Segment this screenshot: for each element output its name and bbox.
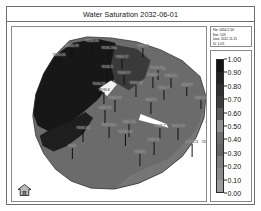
colorbar-band-4	[217, 108, 223, 120]
colorbar-tick-label: 0.80	[228, 82, 242, 89]
home-icon-glyph	[17, 183, 32, 197]
colorbar-tick-label: 0.50	[228, 123, 242, 130]
colorbar-tick-dash	[224, 59, 227, 60]
colorbar-tick-dash	[224, 112, 227, 113]
colorbar-wrap: 1.000.900.800.700.600.500.400.300.200.10…	[216, 59, 246, 193]
colorbar-band-1	[217, 72, 223, 84]
content-area: YD34-38YD34-28YD34-19wYD34-7YD34-35YD34-…	[7, 22, 254, 204]
colorbar-band-7	[217, 144, 223, 156]
colorbar-tick-dash	[224, 85, 227, 86]
colorbar-band-3	[217, 96, 223, 108]
colorbar-tick: 0.50	[224, 123, 241, 130]
colorbar-band-0	[217, 60, 223, 72]
colorbar-tick: 0.70	[224, 96, 241, 103]
colorbar-tick-label: 0.10	[228, 176, 242, 183]
application-window: Water Saturation 2032-06-01	[6, 6, 255, 205]
colorbar-tick-label: 0.30	[228, 149, 242, 156]
colorbar-tick: 0.20	[224, 163, 241, 170]
saturation-map-svg	[12, 27, 206, 201]
colorbar-tick-label: 0.70	[228, 96, 242, 103]
colorbar-tick: 0.10	[224, 176, 241, 183]
colorbar-tick: 0.80	[224, 82, 241, 89]
colorbar-tick: 0.90	[224, 69, 241, 76]
info-line-id: ID: 1.0/1	[213, 42, 250, 47]
colorbar-band-8	[217, 156, 223, 168]
colorbar-tick-label: 1.00	[228, 56, 242, 63]
colorbar-tick-dash	[224, 152, 227, 153]
colorbar-tick-dash	[224, 179, 227, 180]
saturation-map-canvas[interactable]	[12, 27, 206, 201]
colorbar-band-10	[217, 180, 223, 192]
colorbar-tick: 0.30	[224, 149, 241, 156]
colorbar-tick: 0.40	[224, 136, 241, 143]
window-title-bar: Water Saturation 2032-06-01	[7, 7, 254, 22]
colorbar-tick: 1.00	[224, 56, 241, 63]
colorbar-tick-label: 0.60	[228, 109, 242, 116]
colorbar-band-6	[217, 132, 223, 144]
colorbar-tick-label: 0.40	[228, 136, 242, 143]
colorbar-tick-dash	[224, 139, 227, 140]
colorbar-band-2	[217, 84, 223, 96]
colorbar-tick-dash	[224, 72, 227, 73]
colorbar-tick-label: 0.20	[228, 163, 242, 170]
map-saturation-regions	[12, 27, 206, 201]
colorbar-gradient-strip	[216, 59, 224, 193]
colorbar-tick-label: 0.00	[228, 190, 242, 197]
colorbar-tick-label: 0.90	[228, 69, 242, 76]
colorbar-band-5	[217, 120, 223, 132]
metadata-info-box: File: 0454-2.50: Stor: 103 Date: 2012-11…	[210, 26, 252, 47]
page-title: Water Saturation 2032-06-01	[83, 10, 178, 19]
colorbar-band-9	[217, 168, 223, 180]
map-plot-panel[interactable]: YD34-38YD34-28YD34-19wYD34-7YD34-35YD34-…	[11, 26, 207, 202]
colorbar-legend-panel: 1.000.900.800.700.600.500.400.300.200.10…	[210, 50, 252, 202]
colorbar-tick-dash	[224, 193, 227, 194]
colorbar-tick-dash	[224, 99, 227, 100]
colorbar-tick: 0.00	[224, 190, 241, 197]
colorbar-tick-dash	[224, 166, 227, 167]
home-icon[interactable]	[17, 183, 32, 197]
colorbar-tick-labels: 1.000.900.800.700.600.500.400.300.200.10…	[224, 59, 246, 193]
colorbar-tick-dash	[224, 126, 227, 127]
colorbar-tick: 0.60	[224, 109, 241, 116]
